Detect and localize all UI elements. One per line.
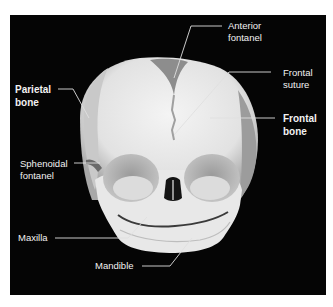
label-mandible: Mandible <box>95 260 134 272</box>
label-line: Sphenoidal <box>20 158 68 170</box>
label-line: Mandible <box>95 260 134 272</box>
label-line: bone <box>283 126 317 139</box>
label-line: Parietal <box>15 84 51 97</box>
label-line: Anterior <box>228 20 262 32</box>
label-parietal-bone: Parietal bone <box>15 84 51 109</box>
label-line: bone <box>15 97 51 110</box>
fetal-skull-illustration <box>0 0 333 307</box>
label-line: fontanel <box>20 170 68 182</box>
label-line: Maxilla <box>18 232 48 244</box>
label-sphenoidal-fontanel: Sphenoidal fontanel <box>20 158 68 181</box>
label-line: Frontal <box>283 67 313 79</box>
label-line: suture <box>283 79 313 91</box>
label-maxilla: Maxilla <box>18 232 48 244</box>
label-frontal-bone: Frontal bone <box>283 113 317 138</box>
label-anterior-fontanel: Anterior fontanel <box>228 20 262 43</box>
label-frontal-suture: Frontal suture <box>283 67 313 90</box>
label-line: fontanel <box>228 32 262 44</box>
label-line: Frontal <box>283 113 317 126</box>
